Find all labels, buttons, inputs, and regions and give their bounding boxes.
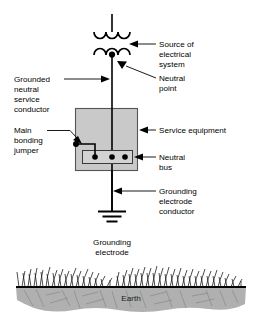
label-neutral-point-line-1: Neutral — [159, 74, 185, 83]
label-main-bonding-jumper-line-2: bonding — [14, 136, 43, 145]
arrowhead-service-equipment — [139, 127, 148, 134]
label-grounding-electrode-line-1: Grounding — [93, 238, 131, 247]
electrical-grounding-diagram: Source of electrical system Neutral poin… — [0, 0, 262, 324]
leader-main-bonding-jumper — [47, 131, 77, 139]
transformer-source-group — [94, 14, 130, 58]
label-grounded-neutral-service-conductor: Grounded neutral service conductor — [14, 75, 50, 114]
diagram-canvas: Source of electrical system Neutral poin… — [0, 0, 262, 324]
label-grounded-neutral-service-conductor-line-4: conductor — [14, 105, 50, 114]
label-source-of-electrical-system-line-2: electrical — [159, 50, 191, 59]
label-earth: Earth — [121, 294, 140, 303]
label-neutral-point: Neutral point — [159, 74, 185, 93]
label-neutral-bus-line-2: bus — [159, 163, 172, 172]
grounding-electrode-symbol — [98, 212, 126, 222]
label-grounding-electrode: Grounding electrode — [93, 238, 131, 257]
label-service-equipment: Service equipment — [159, 126, 227, 135]
label-grounded-neutral-service-conductor-line-1: Grounded — [14, 75, 50, 84]
neutral-bus-terminal-2 — [109, 154, 115, 160]
label-grounding-electrode-conductor-line-2: electrode — [159, 197, 193, 206]
label-source-of-electrical-system: Source of electrical system — [159, 40, 194, 69]
arrowhead-neutral-point — [117, 61, 127, 69]
earth-ground-group — [16, 266, 246, 312]
label-grounding-electrode-conductor: Grounding electrode conductor — [159, 187, 197, 216]
label-main-bonding-jumper-line-1: Main — [14, 126, 32, 135]
label-neutral-bus: Neutral bus — [159, 153, 185, 172]
label-neutral-point-line-2: point — [159, 84, 177, 93]
label-source-of-electrical-system-line-1: Source of — [159, 40, 194, 49]
label-neutral-bus-line-1: Neutral — [159, 153, 185, 162]
label-grounded-neutral-service-conductor-line-3: service — [14, 95, 40, 104]
label-main-bonding-jumper: Main bonding jumper — [13, 126, 43, 155]
label-grounding-electrode-conductor-line-3: conductor — [159, 207, 195, 216]
arrowhead-source-of-electrical-system — [129, 41, 138, 48]
label-grounding-electrode-line-2: electrode — [95, 248, 129, 257]
arrowhead-grounded-neutral-service-conductor — [101, 76, 110, 83]
label-service-equipment-line-1: Service equipment — [159, 126, 227, 135]
neutral-bus-terminal-3 — [122, 154, 128, 160]
label-grounding-electrode-conductor-line-1: Grounding — [159, 187, 197, 196]
label-source-of-electrical-system-line-3: system — [159, 60, 185, 69]
label-main-bonding-jumper-line-3: jumper — [13, 146, 39, 155]
grass-tufts — [17, 266, 242, 287]
neutral-bus-group — [83, 151, 133, 164]
label-grounded-neutral-service-conductor-line-2: neutral — [14, 85, 39, 94]
arrowhead-grounding-electrode-conductor — [113, 188, 122, 195]
transformer-primary-winding-icon — [94, 32, 130, 39]
leader-neutral-point — [126, 66, 156, 78]
